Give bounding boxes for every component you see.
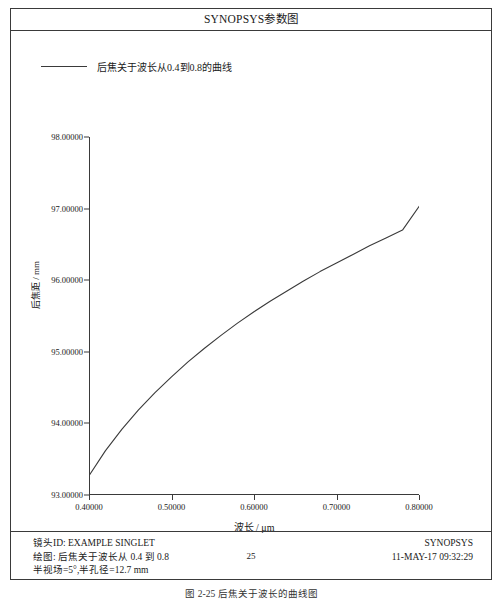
- y-tick-label: 96.00000: [51, 275, 83, 285]
- x-tick-mark: [419, 495, 420, 500]
- x-tick-mark: [337, 495, 338, 500]
- chart-frame: SYNOPSYS参数图 后焦关于波长从0.4到0.8的曲线 后焦距 / mm 9…: [10, 8, 492, 580]
- y-tick-mark: [84, 423, 89, 424]
- x-tick-label: 0.50000: [158, 502, 186, 512]
- footer-right: SYNOPSYS 11-MAY-17 09:32:29: [392, 537, 473, 564]
- y-tick-mark: [84, 351, 89, 352]
- plot-area: 93.0000094.0000095.0000096.0000097.00000…: [89, 137, 419, 495]
- legend-label: 后焦关于波长从0.4到0.8的曲线: [97, 59, 232, 74]
- y-tick-label: 98.00000: [51, 132, 83, 142]
- x-tick-label: 0.70000: [323, 502, 351, 512]
- x-tick-mark: [254, 495, 255, 500]
- y-tick-mark: [84, 137, 89, 138]
- y-tick-label: 97.00000: [51, 204, 83, 214]
- field-text: 半视场=5°,半孔径=12.7 mm: [33, 564, 169, 578]
- y-tick-label: 94.00000: [51, 418, 83, 428]
- y-tick-mark: [84, 208, 89, 209]
- x-tick-label: 0.60000: [240, 502, 268, 512]
- data-curve: [89, 137, 419, 495]
- y-tick-mark: [84, 280, 89, 281]
- y-tick-label: 95.00000: [51, 347, 83, 357]
- footer: 镜头ID: EXAMPLE SINGLET 绘图: 后焦关于波长从 0.4 到 …: [11, 532, 491, 579]
- x-tick-mark: [89, 495, 90, 500]
- legend-line-swatch: [41, 66, 87, 67]
- chart-page: SYNOPSYS参数图 后焦关于波长从0.4到0.8的曲线 后焦距 / mm 9…: [0, 0, 503, 602]
- series-line: [89, 206, 419, 475]
- x-tick-mark: [172, 495, 173, 500]
- timestamp-text: 11-MAY-17 09:32:29: [392, 551, 473, 565]
- lens-id-text: 镜头ID: EXAMPLE SINGLET: [33, 537, 169, 551]
- x-tick-label: 0.80000: [405, 502, 433, 512]
- y-tick-label: 93.00000: [51, 490, 83, 500]
- legend: 后焦关于波长从0.4到0.8的曲线: [41, 59, 232, 74]
- figure-caption: 图 2-25 后焦关于波长的曲线图: [0, 586, 503, 600]
- x-tick-label: 0.40000: [75, 502, 103, 512]
- page-title: SYNOPSYS参数图: [11, 9, 491, 31]
- brand-text: SYNOPSYS: [392, 537, 473, 551]
- y-axis-label: 后焦距 / mm: [29, 261, 42, 309]
